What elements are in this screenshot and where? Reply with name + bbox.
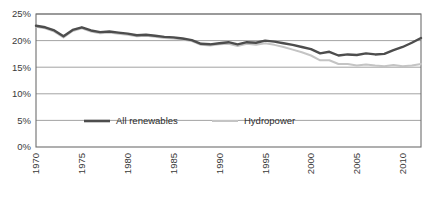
x-tick-label: 1985 — [168, 153, 179, 174]
x-tick-label: 1975 — [76, 153, 87, 174]
x-axis-tick-labels: 197019751980198519901995200020052010 — [30, 153, 408, 174]
y-tick-label: 20% — [12, 35, 32, 46]
x-tick-label: 1995 — [260, 153, 271, 174]
y-tick-label: 0% — [17, 141, 31, 152]
x-tick-label: 1990 — [214, 153, 225, 174]
y-tick-label: 5% — [17, 115, 31, 126]
y-tick-label: 15% — [12, 62, 32, 73]
y-tick-label: 10% — [12, 88, 32, 99]
x-tick-label: 2000 — [305, 153, 316, 174]
x-tick-label: 2010 — [397, 153, 408, 174]
line-chart: 0%5%10%15%20%25% 19701975198019851990199… — [0, 0, 437, 204]
legend-label: All renewables — [116, 115, 178, 126]
chart-container: 0%5%10%15%20%25% 19701975198019851990199… — [0, 0, 437, 204]
x-tick-label: 1980 — [122, 153, 133, 174]
legend-label: Hydropower — [244, 115, 295, 126]
y-tick-label: 25% — [12, 8, 32, 19]
x-tick-label: 2005 — [351, 153, 362, 174]
x-tick-label: 1970 — [30, 153, 41, 174]
